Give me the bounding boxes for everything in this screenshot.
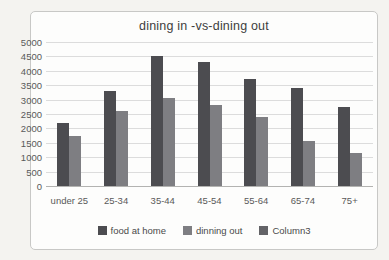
- y-axis-tick-label: 2000: [12, 123, 42, 134]
- gridline: [46, 186, 373, 187]
- legend-item: dinning out: [183, 225, 242, 236]
- y-axis-tick-label: 3000: [12, 95, 42, 106]
- food-at-home-bar: [104, 91, 116, 186]
- x-axis-category-label: 65-74: [280, 195, 327, 206]
- dinning-out-bar: [256, 117, 268, 186]
- gridline: [46, 42, 373, 43]
- y-axis-tick-label: 0: [12, 181, 42, 192]
- food-at-home-bar: [57, 123, 69, 186]
- legend-label: food at home: [111, 225, 166, 236]
- dinning-out-bar: [210, 105, 222, 186]
- dinning-out-bar: [163, 98, 175, 186]
- x-axis-category-label: 75+: [326, 195, 373, 206]
- food-at-home-bar: [198, 62, 210, 186]
- chart-title: dining in -vs-dining out: [31, 19, 377, 33]
- y-axis-tick-label: 3500: [12, 80, 42, 91]
- dinning-out-bar: [350, 153, 362, 186]
- legend: food at homedinning outColumn3: [31, 225, 377, 236]
- x-axis-category-label: 45-54: [186, 195, 233, 206]
- legend-label: Column3: [272, 225, 310, 236]
- x-axis-category-label: under 25: [46, 195, 93, 206]
- legend-item: food at home: [98, 225, 166, 236]
- gridline: [46, 56, 373, 57]
- legend-item: Column3: [259, 225, 310, 236]
- y-axis-tick-label: 1500: [12, 138, 42, 149]
- x-axis-category-label: 55-64: [233, 195, 280, 206]
- y-axis-tick-label: 2500: [12, 109, 42, 120]
- plot-area: 0500100015002000250030003500400045005000…: [46, 42, 373, 186]
- y-axis-tick-label: 5000: [12, 37, 42, 48]
- legend-swatch-icon: [183, 226, 192, 235]
- legend-swatch-icon: [259, 226, 268, 235]
- x-axis-category-label: 35-44: [139, 195, 186, 206]
- y-axis-tick-label: 4500: [12, 51, 42, 62]
- gridline: [46, 100, 373, 101]
- food-at-home-bar: [338, 107, 350, 186]
- y-axis-tick-label: 500: [12, 167, 42, 178]
- dinning-out-bar: [69, 136, 81, 186]
- food-at-home-bar: [244, 79, 256, 186]
- dinning-out-bar: [116, 111, 128, 186]
- legend-label: dinning out: [196, 225, 242, 236]
- legend-swatch-icon: [98, 226, 107, 235]
- food-at-home-bar: [291, 88, 303, 186]
- x-axis-category-label: 25-34: [93, 195, 140, 206]
- y-axis-tick-label: 4000: [12, 66, 42, 77]
- gridline: [46, 71, 373, 72]
- food-at-home-bar: [151, 56, 163, 186]
- y-axis-tick-label: 1000: [12, 152, 42, 163]
- dinning-out-bar: [303, 141, 315, 186]
- gridline: [46, 85, 373, 86]
- chart-frame: dining in -vs-dining out 050010001500200…: [30, 11, 378, 250]
